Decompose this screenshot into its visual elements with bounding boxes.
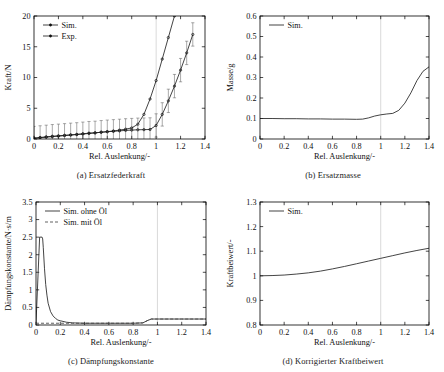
svg-text:0.8: 0.8 <box>351 142 361 151</box>
svg-text:1: 1 <box>155 328 159 337</box>
svg-text:0.4: 0.4 <box>246 53 256 62</box>
svg-text:1: 1 <box>28 286 32 295</box>
svg-text:Sim. mit Öl: Sim. mit Öl <box>64 218 103 227</box>
svg-text:1.2: 1.2 <box>400 328 410 337</box>
svg-text:1.3: 1.3 <box>246 198 256 207</box>
svg-text:1: 1 <box>379 328 383 337</box>
svg-text:0.4: 0.4 <box>78 142 88 151</box>
svg-text:1.4: 1.4 <box>424 142 434 151</box>
svg-text:0: 0 <box>26 135 30 144</box>
svg-text:0.8: 0.8 <box>246 321 256 330</box>
svg-text:Sim.: Sim. <box>288 21 303 30</box>
panel-d-caption: (d) Korrigierter Kraftbeiwert <box>222 356 444 366</box>
svg-text:Rel. Auslenkung/-: Rel. Auslenkung/- <box>89 152 150 161</box>
svg-text:1: 1 <box>252 272 256 281</box>
panel-a-plot: 00.20.40.60.811.21.405101520Rel. Auslenk… <box>0 0 222 186</box>
panel-b-caption: (b) Ersatzmasse <box>222 170 444 180</box>
svg-text:0.1: 0.1 <box>246 114 256 123</box>
svg-text:0: 0 <box>34 328 38 337</box>
svg-text:Sim.: Sim. <box>288 207 303 216</box>
svg-text:3.5: 3.5 <box>22 198 32 207</box>
svg-text:1: 1 <box>379 142 383 151</box>
svg-text:Kraftbeiwert/-: Kraftbeiwert/- <box>226 239 235 287</box>
svg-text:1.2: 1.2 <box>175 142 185 151</box>
svg-text:1.2: 1.2 <box>246 223 256 232</box>
svg-text:0.6: 0.6 <box>104 328 114 337</box>
svg-text:0.3: 0.3 <box>246 73 256 82</box>
svg-text:0.6: 0.6 <box>102 142 112 151</box>
panel-c-plot: 00.20.40.60.811.21.400.511.522.533.5Rel.… <box>0 186 222 372</box>
svg-text:0.8: 0.8 <box>127 142 137 151</box>
svg-text:Dämpfungskonstante/N·s/m: Dämpfungskonstante/N·s/m <box>4 216 13 311</box>
svg-text:0.2: 0.2 <box>279 328 289 337</box>
svg-text:0.8: 0.8 <box>128 328 138 337</box>
svg-text:Kraft/N: Kraft/N <box>4 64 13 90</box>
svg-text:2: 2 <box>28 251 32 260</box>
svg-text:20: 20 <box>22 12 30 21</box>
svg-text:0.9: 0.9 <box>246 296 256 305</box>
svg-text:0: 0 <box>258 142 262 151</box>
svg-text:1.2: 1.2 <box>177 328 187 337</box>
svg-text:0: 0 <box>28 321 32 330</box>
svg-text:0: 0 <box>32 142 36 151</box>
panel-a: 00.20.40.60.811.21.405101520Rel. Auslenk… <box>0 0 222 186</box>
svg-text:0.4: 0.4 <box>79 328 89 337</box>
svg-text:1.2: 1.2 <box>400 142 410 151</box>
svg-text:0.6: 0.6 <box>327 328 337 337</box>
svg-text:1: 1 <box>154 142 158 151</box>
svg-text:1.5: 1.5 <box>22 268 32 277</box>
panel-b: 00.20.40.60.811.21.400.10.20.30.40.50.6R… <box>222 0 444 186</box>
svg-text:0.2: 0.2 <box>246 94 256 103</box>
panel-b-plot: 00.20.40.60.811.21.400.10.20.30.40.50.6R… <box>222 0 444 186</box>
svg-text:0.2: 0.2 <box>55 328 65 337</box>
panel-a-caption: (a) Ersatzfederkraft <box>0 170 222 180</box>
svg-text:Rel. Auslenkung/-: Rel. Auslenkung/- <box>314 152 375 161</box>
svg-text:Masse/g: Masse/g <box>226 63 235 92</box>
svg-text:0.4: 0.4 <box>303 328 313 337</box>
svg-text:0.6: 0.6 <box>327 142 337 151</box>
svg-text:1.1: 1.1 <box>246 247 256 256</box>
svg-text:0.8: 0.8 <box>351 328 361 337</box>
svg-text:0.2: 0.2 <box>279 142 289 151</box>
svg-text:1.4: 1.4 <box>201 328 211 337</box>
svg-text:0.2: 0.2 <box>53 142 63 151</box>
svg-text:Rel. Auslenkung/-: Rel. Auslenkung/- <box>91 338 152 347</box>
svg-text:0: 0 <box>252 135 256 144</box>
svg-text:10: 10 <box>22 73 30 82</box>
svg-text:3: 3 <box>28 215 32 224</box>
panel-d: 00.20.40.60.811.21.40.80.911.11.21.3Rel.… <box>222 186 444 372</box>
panel-c-caption: (c) Dämpfungskonstante <box>0 356 222 366</box>
svg-text:Sim.: Sim. <box>62 21 77 30</box>
svg-text:5: 5 <box>26 104 30 113</box>
svg-text:1.4: 1.4 <box>200 142 210 151</box>
svg-text:0.5: 0.5 <box>22 303 32 312</box>
svg-text:Sim. ohne Öl: Sim. ohne Öl <box>64 207 108 216</box>
svg-text:Exp.: Exp. <box>62 32 77 41</box>
svg-text:0.4: 0.4 <box>303 142 313 151</box>
svg-text:2.5: 2.5 <box>22 233 32 242</box>
svg-text:15: 15 <box>22 43 30 52</box>
panel-c: 00.20.40.60.811.21.400.511.522.533.5Rel.… <box>0 186 222 372</box>
figure-grid: 00.20.40.60.811.21.405101520Rel. Auslenk… <box>0 0 444 372</box>
svg-text:Rel. Auslenkung/-: Rel. Auslenkung/- <box>314 338 375 347</box>
svg-text:0.6: 0.6 <box>246 12 256 21</box>
svg-text:0: 0 <box>258 328 262 337</box>
svg-text:0.5: 0.5 <box>246 32 256 41</box>
svg-text:1.4: 1.4 <box>424 328 434 337</box>
panel-d-plot: 00.20.40.60.811.21.40.80.911.11.21.3Rel.… <box>222 186 444 372</box>
